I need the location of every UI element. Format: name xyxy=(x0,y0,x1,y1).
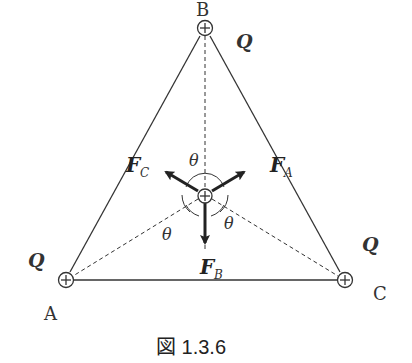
triangle-force-diagram: B A C Q Q Q F C F A F B θ θ θ 図 1.3.6 xyxy=(0,0,412,363)
arrow-fa xyxy=(212,172,244,191)
charge-center xyxy=(198,189,212,203)
svg-text:B: B xyxy=(213,268,223,282)
arrow-fc xyxy=(166,172,198,191)
label-fc: F C xyxy=(125,153,149,180)
charge-c xyxy=(338,273,353,288)
charge-label-b: Q xyxy=(236,30,253,52)
charge-a xyxy=(59,273,74,288)
charge-label-a: Q xyxy=(28,249,45,271)
svg-text:C: C xyxy=(140,166,149,180)
label-b: B xyxy=(196,0,209,20)
theta-top: θ xyxy=(189,151,199,170)
charge-label-c: Q xyxy=(362,233,379,255)
theta-left: θ xyxy=(162,225,172,244)
theta-right: θ xyxy=(224,214,234,233)
label-fb: F B xyxy=(199,255,223,282)
charge-b xyxy=(198,21,213,36)
figure-caption: 図 1.3.6 xyxy=(156,336,226,358)
label-c: C xyxy=(373,283,387,304)
label-a: A xyxy=(43,303,58,324)
svg-text:A: A xyxy=(283,166,293,180)
label-fa: F A xyxy=(269,153,293,180)
